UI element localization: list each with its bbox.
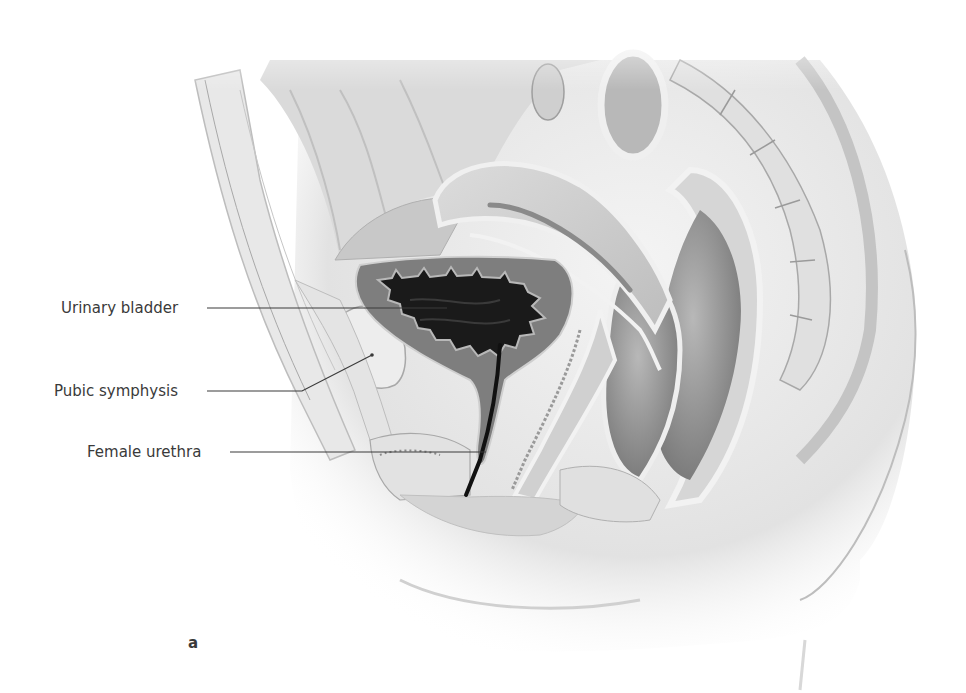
label-urinary-bladder: Urinary bladder bbox=[61, 299, 178, 317]
pelvis-sagittal-illustration bbox=[0, 0, 966, 693]
panel-letter: a bbox=[188, 634, 198, 652]
label-female-urethra: Female urethra bbox=[87, 443, 201, 461]
label-pubic-symphysis: Pubic symphysis bbox=[54, 382, 178, 400]
